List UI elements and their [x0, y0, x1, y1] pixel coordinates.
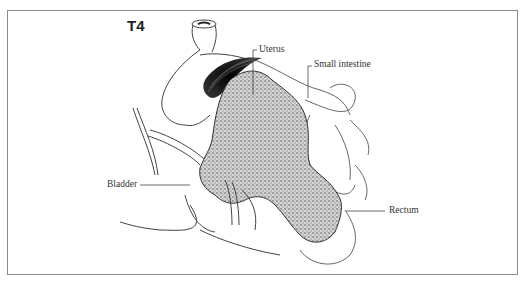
- label-rectum: Rectum: [389, 205, 419, 215]
- anatomy-illustration: [0, 0, 528, 284]
- stage-label: T4: [127, 17, 145, 34]
- label-uterus: Uterus: [259, 44, 284, 54]
- tumor-mass: [200, 71, 342, 242]
- label-bladder: Bladder: [107, 179, 137, 189]
- label-small-intestine: Small intestine: [314, 59, 371, 69]
